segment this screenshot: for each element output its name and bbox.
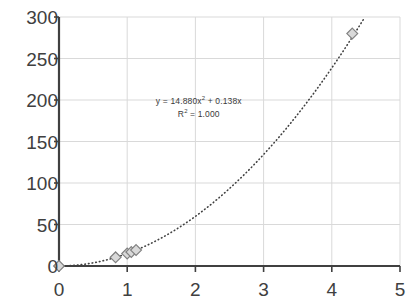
x-axis-tick-label: 1 [122,280,133,299]
y-axis-tick-label: 300 [26,8,58,27]
scatter-chart: 050100150200250300 012345 y = 14.880x2 +… [0,0,417,307]
tick-marks [54,17,400,272]
data-point-markers [54,28,358,271]
r-squared-line: R2 = 1.000 [124,108,274,120]
trendline-equation-line: y = 14.880x2 + 0.138x [124,95,274,107]
trendline-equation-annotation: y = 14.880x2 + 0.138x R2 = 1.000 [124,95,274,120]
x-axis-tick-label: 2 [190,280,201,299]
equation-suffix: + 0.138x [205,96,242,106]
y-axis-tick-label: 150 [26,132,58,151]
plot-area [0,0,417,307]
y-axis-tick-label: 200 [26,91,58,110]
horizontal-gridlines [59,17,400,225]
y-axis-tick-label: 250 [26,49,58,68]
y-axis-tick-label: 50 [37,215,58,234]
y-axis-tick-label: 100 [26,174,58,193]
x-axis-tick-label: 0 [54,280,65,299]
equation-prefix: y = 14.880x [156,96,202,106]
y-axis-tick-label: 0 [47,257,58,276]
x-axis-tick-label: 5 [395,280,406,299]
r-squared-suffix: = 1.000 [188,109,220,119]
x-axis-tick-label: 3 [258,280,269,299]
x-axis-tick-label: 4 [327,280,338,299]
